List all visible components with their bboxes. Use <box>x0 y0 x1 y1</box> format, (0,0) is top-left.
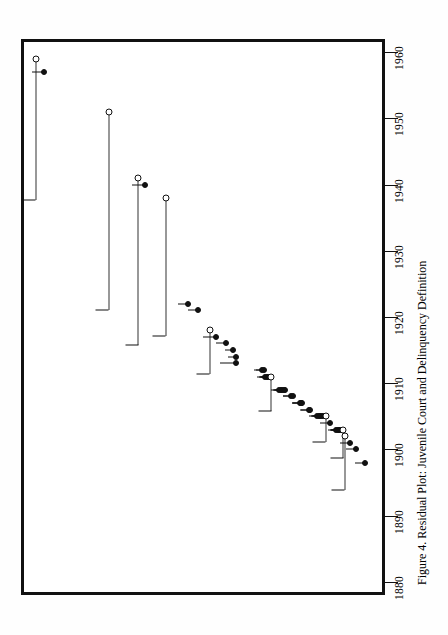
data-point-filled <box>213 334 219 340</box>
interval-bar-cap <box>197 374 210 375</box>
figure-caption: Figure 4. Residual Plot: Juvenile Court … <box>415 261 430 585</box>
data-point-open <box>162 194 169 201</box>
data-point-filled <box>290 393 296 399</box>
data-point-filled <box>347 440 353 446</box>
plot-data-layer <box>21 39 385 595</box>
axis-tick-label-1930: 1930 <box>393 245 405 269</box>
interval-bar <box>325 416 326 441</box>
axis-tick-label-1940: 1940 <box>393 179 405 203</box>
data-point-filled <box>195 307 201 313</box>
axis-tick-label-1910: 1910 <box>393 377 405 401</box>
data-point-filled <box>41 69 47 75</box>
data-point-filled <box>282 387 288 393</box>
data-point-open <box>341 433 348 440</box>
residual-plot-figure: 188018901900191019201930194019501960 Fig… <box>0 0 448 635</box>
interval-bar-cap <box>125 345 138 346</box>
data-point-open <box>135 175 142 182</box>
interval-bar-cap <box>96 310 109 311</box>
data-point-filled <box>185 301 191 307</box>
interval-bar-cap <box>313 441 326 442</box>
figure-page: 188018901900191019201930194019501960 Fig… <box>0 0 448 635</box>
data-point-open <box>322 413 329 420</box>
interval-bar <box>138 178 139 345</box>
data-point-filled <box>299 400 305 406</box>
data-point-filled <box>327 420 333 426</box>
data-point-filled <box>223 340 229 346</box>
data-point-open <box>206 327 213 334</box>
axis-tick-label-1890: 1890 <box>393 510 405 534</box>
data-point-filled <box>142 182 148 188</box>
interval-bar-cap <box>332 490 345 491</box>
data-point-open <box>268 373 275 380</box>
interval-bar-cap <box>330 457 343 458</box>
interval-bar <box>271 377 272 411</box>
axis-tick-label-1950: 1950 <box>393 113 405 137</box>
interval-bar-cap <box>153 335 166 336</box>
interval-bar <box>108 112 109 310</box>
interval-bar-cap <box>23 200 36 201</box>
data-point-filled <box>307 407 313 413</box>
axis-tick-label-1900: 1900 <box>393 443 405 467</box>
data-point-filled <box>230 347 236 353</box>
data-point-filled <box>353 446 359 452</box>
data-point-filled <box>233 360 239 366</box>
data-point-open <box>32 55 39 62</box>
axis-tick-label-1920: 1920 <box>393 311 405 335</box>
data-point-open <box>105 108 112 115</box>
axis-tick-label-1960: 1960 <box>393 46 405 70</box>
interval-bar <box>35 59 36 200</box>
interval-bar <box>165 198 166 336</box>
axis-tick-label-1880: 1880 <box>393 576 405 600</box>
interval-bar-cap <box>258 410 271 411</box>
interval-bar <box>344 436 345 490</box>
data-point-filled <box>261 367 267 373</box>
data-point-filled <box>233 354 239 360</box>
data-point-filled <box>362 460 368 466</box>
